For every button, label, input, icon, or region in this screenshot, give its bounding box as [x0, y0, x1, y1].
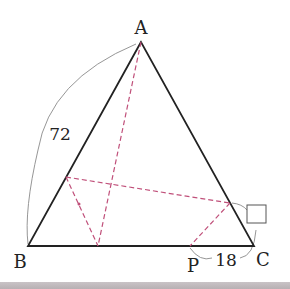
point-label-p: P — [187, 255, 199, 276]
arrow-mark — [78, 203, 81, 206]
measure-label-ab: 72 — [49, 124, 71, 144]
fold-lines — [66, 42, 230, 246]
vertex-label-a: A — [134, 17, 149, 38]
fold-line-df — [66, 177, 230, 203]
triangle-diagram: A B C P 72 18 — [0, 0, 290, 289]
vertex-label-b: B — [13, 251, 26, 272]
fold-line-ae — [98, 42, 141, 246]
answer-box[interactable] — [247, 205, 266, 223]
measure-label-pc: 18 — [215, 250, 237, 270]
fold-line-fp — [190, 203, 230, 246]
vertex-label-c: C — [256, 249, 270, 270]
bottom-divider — [0, 282, 290, 289]
fold-line-de — [66, 177, 98, 246]
